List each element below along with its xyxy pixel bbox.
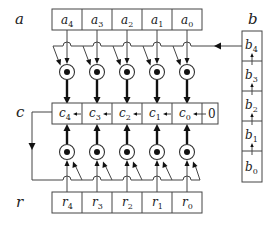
label-r: r [16,193,24,211]
multiplier-lower-1 [150,124,173,192]
register-a: a4 a3 a2 a1 a0 [52,9,202,30]
b-broadcast-bus [53,42,242,50]
multiplier-lower-3 [90,124,113,192]
multiplier-upper-3 [83,30,105,104]
multiplier-upper-1 [143,30,165,104]
register-b: b4 b3 b2 b1 b0 [242,31,262,182]
multiplier-lower-4 [60,124,83,192]
label-a: a [15,10,24,28]
register-c: c4 c3 c2 c1 c0 0 [52,103,218,124]
b-arrow-icon [214,43,221,50]
lower-multipliers [60,124,201,192]
feedback-arrow-icon [29,143,36,150]
upper-multipliers [53,30,195,104]
multiplier-upper-0 [173,30,195,104]
multiplier-upper-4 [53,30,75,104]
register-r: r4 r3 r2 r1 r0 [52,192,202,213]
multiplier-diagram: a b c r a4 a3 a2 a1 a0 b4 b3 b2 b1 b0 [0,0,276,227]
cell-c-shift-in: 0 [208,107,216,121]
multiplier-lower-2 [120,124,143,192]
label-b: b [248,10,258,28]
multiplier-upper-2 [113,30,135,104]
multiplier-lower-0 [180,124,201,192]
label-c: c [16,103,25,121]
